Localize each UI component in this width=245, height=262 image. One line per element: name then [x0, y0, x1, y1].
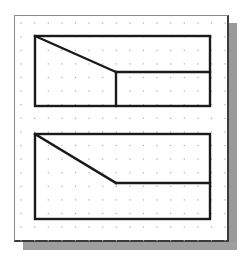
grid-dot [184, 199, 185, 200]
grid-dot [197, 50, 198, 51]
grid-dot [197, 172, 198, 173]
sketch-line [35, 36, 116, 72]
grid-dot [157, 172, 158, 173]
grid-dot [21, 159, 22, 160]
grid-dot [184, 91, 185, 92]
grid-dot [34, 118, 35, 119]
grid-dot [102, 91, 103, 92]
grid-dot [75, 91, 76, 92]
grid-dot [184, 186, 185, 187]
grid-dot [34, 227, 35, 228]
grid-dot [61, 131, 62, 132]
grid-dot [184, 240, 185, 241]
sketch-line [35, 134, 116, 183]
grid-dot [102, 186, 103, 187]
grid-dot [143, 91, 144, 92]
grid-dot [184, 77, 185, 78]
grid-dot [157, 240, 158, 241]
grid-dot [116, 63, 117, 64]
grid-dot [143, 145, 144, 146]
grid-dot [143, 50, 144, 51]
grid-dot [102, 50, 103, 51]
grid-dot [89, 227, 90, 228]
grid-dot [48, 23, 49, 24]
grid-dot [197, 240, 198, 241]
grid-dot [143, 159, 144, 160]
grid-dot [61, 240, 62, 241]
grid-dot [89, 199, 90, 200]
grid-dot [225, 172, 226, 173]
grid-dot [21, 36, 22, 37]
grid-dot [116, 199, 117, 200]
grid-dot [184, 172, 185, 173]
grid-dot [129, 91, 130, 92]
grid-dot [197, 23, 198, 24]
grid-dot [116, 172, 117, 173]
grid-dot [170, 50, 171, 51]
grid-dot [129, 199, 130, 200]
grid-dot [75, 199, 76, 200]
grid-dot [21, 145, 22, 146]
grid-dot [129, 145, 130, 146]
grid-dot [225, 91, 226, 92]
grid-dot [102, 23, 103, 24]
grid-dot [129, 50, 130, 51]
grid-dot [197, 77, 198, 78]
grid-dot [211, 227, 212, 228]
grid-dot [48, 199, 49, 200]
grid-dot [48, 159, 49, 160]
grid-dot [48, 240, 49, 241]
grid-dots [21, 23, 226, 242]
grid-dot [61, 145, 62, 146]
grid-dot [89, 50, 90, 51]
front-view [35, 134, 210, 219]
grid-dot [89, 91, 90, 92]
grid-dot [211, 23, 212, 24]
grid-dot [102, 131, 103, 132]
grid-dot [129, 63, 130, 64]
grid-dot [225, 227, 226, 228]
grid-dot [61, 23, 62, 24]
grid-dot [184, 63, 185, 64]
grid-dot [116, 131, 117, 132]
grid-dot [102, 118, 103, 119]
grid-dot [170, 159, 171, 160]
grid-dot [75, 118, 76, 119]
grid-dot [143, 63, 144, 64]
grid-dot [197, 145, 198, 146]
grid-dot [211, 131, 212, 132]
grid-dot [184, 50, 185, 51]
grid-dot [225, 23, 226, 24]
grid-dot [61, 172, 62, 173]
grid-dot [34, 131, 35, 132]
outline-rectangle [35, 134, 210, 219]
grid-dot [225, 186, 226, 187]
grid-dot [61, 213, 62, 214]
grid-dot [116, 23, 117, 24]
grid-dot [143, 131, 144, 132]
grid-dot [157, 213, 158, 214]
grid-dot [170, 213, 171, 214]
grid-dot [102, 159, 103, 160]
grid-dot [48, 186, 49, 187]
grid-dot [197, 63, 198, 64]
grid-dot [21, 172, 22, 173]
grid-dot [102, 240, 103, 241]
grid-dot [157, 145, 158, 146]
grid-dot [102, 199, 103, 200]
grid-dot [225, 159, 226, 160]
grid-dot [21, 199, 22, 200]
grid-dot [116, 213, 117, 214]
grid-dot [129, 159, 130, 160]
grid-dot [184, 118, 185, 119]
grid-dot [129, 131, 130, 132]
grid-dot [75, 240, 76, 241]
grid-dot [102, 63, 103, 64]
grid-dot [89, 118, 90, 119]
grid-dot [21, 63, 22, 64]
grid-dot [48, 91, 49, 92]
grid-dot [48, 172, 49, 173]
grid-dot [21, 77, 22, 78]
grid-dot [129, 118, 130, 119]
grid-dot [61, 91, 62, 92]
